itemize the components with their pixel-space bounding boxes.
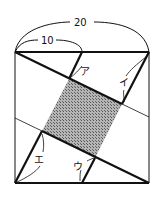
thin-line-right [122,104,149,117]
segment-u [82,158,95,183]
label-u: ウ [73,161,83,172]
thin-line-left [15,118,42,131]
shaded-region [42,79,122,158]
label-a: ア [80,66,90,77]
label-i: イ [119,77,129,88]
label-20: 20 [74,17,87,28]
geometry-diagram: 20 10 ア イ エ ウ [0,0,163,202]
label-10: 10 [41,35,54,46]
label-e: エ [34,154,44,165]
